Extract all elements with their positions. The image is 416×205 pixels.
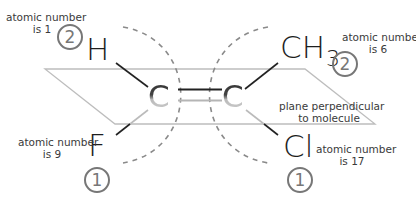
bond-c-f-upper xyxy=(130,110,148,124)
bond-c-ch3 xyxy=(245,63,278,89)
methyl-main: CH xyxy=(280,29,325,65)
priority-circle-chlorine: 1 xyxy=(287,167,313,193)
bond-c-f-lower xyxy=(116,124,130,135)
annotation-bottom-left-line2: is 9 xyxy=(18,148,86,160)
annotation-bottom-left-line1: atomic number xyxy=(18,136,86,148)
priority-circle-hydrogen: 2 xyxy=(57,24,83,50)
atom-methyl: CH3 xyxy=(280,32,340,63)
plane-label: plane perpendicular to molecule xyxy=(279,100,379,124)
annotation-bottom-right-line2: is 17 xyxy=(316,155,388,167)
atom-carbon-right: C xyxy=(222,81,244,112)
priority-circle-fluorine: 1 xyxy=(84,167,110,193)
annotation-bottom-right: atomic number is 17 xyxy=(316,143,388,167)
bond-c-cl-upper xyxy=(246,110,264,124)
atom-chlorine: Cl xyxy=(283,131,313,162)
annotation-bottom-left: atomic number is 9 xyxy=(18,136,86,160)
bond-c-cl-lower xyxy=(264,124,278,135)
priority-circle-methyl: 2 xyxy=(332,51,358,77)
plane-label-line1: plane perpendicular xyxy=(279,100,379,112)
annotation-top-right: atomic number is 6 xyxy=(342,31,414,55)
annotation-bottom-right-line1: atomic number xyxy=(316,143,388,155)
annotation-top-left-line1: atomic number xyxy=(6,11,78,23)
bond-h-c xyxy=(116,63,148,87)
annotation-top-right-line1: atomic number xyxy=(342,31,414,43)
atom-hydrogen: H xyxy=(86,34,109,65)
atom-carbon-left: C xyxy=(148,81,170,112)
cis-trans-priority-diagram: H CH3 F Cl C C plane perpendicular to mo… xyxy=(0,0,416,205)
plane-label-line2: to molecule xyxy=(279,112,379,124)
